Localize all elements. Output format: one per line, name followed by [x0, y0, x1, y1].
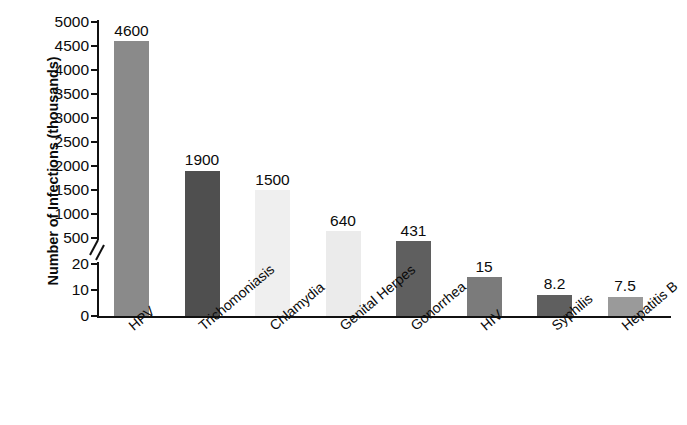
y-tick-label: 10 [37, 282, 89, 298]
bar: 1500 [255, 190, 290, 316]
y-tick-label: 500 [37, 230, 89, 246]
y-tick [91, 45, 98, 47]
y-tick [91, 289, 98, 291]
bar-value-label: 4600 [114, 23, 148, 39]
y-tick [91, 213, 98, 215]
y-tick-label: 2000 [37, 158, 89, 174]
y-tick-label: 4500 [37, 38, 89, 54]
y-tick [91, 21, 98, 23]
bar: 4600 [114, 41, 149, 316]
y-axis-line [97, 20, 99, 318]
bar-value-label: 1900 [185, 152, 219, 168]
y-tick [91, 315, 98, 317]
bar-chart: Number of Infections (thousands) 0102050… [0, 0, 687, 425]
y-tick [91, 165, 98, 167]
y-tick-label: 1500 [37, 182, 89, 198]
x-axis-line [97, 316, 671, 318]
y-tick-label: 3500 [37, 86, 89, 102]
axis-break-marker [88, 238, 108, 264]
bar-value-label: 640 [330, 213, 356, 229]
y-tick [91, 93, 98, 95]
y-tick-label: 20 [37, 256, 89, 272]
y-tick-label: 3000 [37, 110, 89, 126]
y-tick-label: 2500 [37, 134, 89, 150]
bar-value-label: 7.5 [614, 278, 636, 294]
bar-value-label: 8.2 [544, 276, 566, 292]
y-tick [91, 141, 98, 143]
y-tick-label: 1000 [37, 206, 89, 222]
bar-value-label: 15 [475, 259, 492, 275]
bar-value-label: 431 [401, 223, 427, 239]
y-tick [91, 69, 98, 71]
bar-value-label: 1500 [255, 172, 289, 188]
bar: 1900 [185, 171, 220, 316]
y-tick-label: 5000 [37, 14, 89, 30]
y-axis-tick-labels: 0102050010001500200025003000350040004500… [33, 0, 89, 425]
y-tick-label: 0 [37, 308, 89, 324]
y-tick-label: 4000 [37, 62, 89, 78]
y-tick [91, 189, 98, 191]
bar: 640 [326, 231, 361, 316]
y-tick [91, 117, 98, 119]
